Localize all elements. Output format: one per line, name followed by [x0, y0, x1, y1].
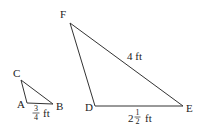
vertex-label-a: A	[17, 98, 25, 110]
unit-label: ft	[145, 112, 152, 124]
fraction-denominator: 2	[136, 117, 140, 126]
fraction-denominator: 4	[34, 113, 38, 122]
vertex-label-c: C	[13, 67, 20, 79]
vertex-label-e: E	[186, 102, 193, 114]
fraction-numerator: 1	[136, 108, 140, 117]
similar-triangles-diagram: C A B 3 4 ft F D E 4 ft 2 1 2 ft	[0, 0, 205, 134]
vertex-label-b: B	[56, 100, 63, 112]
fraction-numerator: 3	[34, 104, 38, 113]
triangle-def	[70, 23, 183, 106]
side-de-length: 2 1 2 ft	[128, 108, 152, 126]
side-ab-length: 3 4 ft	[33, 104, 50, 122]
unit-label: ft	[43, 107, 50, 119]
vertex-label-f: F	[60, 8, 66, 20]
mixed-number-whole: 2	[128, 112, 134, 124]
triangle-abc	[21, 80, 53, 104]
side-fe-length: 4 ft	[127, 50, 142, 62]
vertex-label-d: D	[85, 101, 93, 113]
